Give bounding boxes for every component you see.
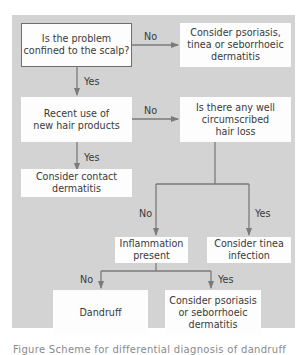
edge-label-inflammation-yes: Yes (218, 274, 234, 285)
node-label: Consider psoriasis or seborrhoeic dermat… (169, 295, 257, 331)
edge-label-hairloss-yes: Yes (255, 208, 271, 219)
edge-label-products-yes: Yes (84, 152, 100, 163)
node-label: Is there any well circumscribed hair los… (194, 102, 277, 138)
node-confined-to-scalp: Is the problem confined to the scalp? (21, 23, 132, 67)
node-consider-tinea-infection: Consider tinea infection (207, 237, 291, 263)
node-inflammation-present: Inflammation present (115, 237, 188, 263)
node-consider-contact-dermatitis: Consider contact dermatitis (21, 169, 132, 197)
node-consider-psoriasis-seborrhoeic: Consider psoriasis or seborrhoeic dermat… (165, 290, 261, 335)
edge-label-products-no: No (144, 105, 157, 116)
node-circumscribed-hair-loss: Is there any well circumscribed hair los… (180, 97, 291, 142)
edge-label-scalp-no: No (144, 31, 157, 42)
node-label: Recent use of new hair products (33, 108, 120, 132)
node-label: Inflammation present (119, 238, 184, 262)
edge-label-hairloss-no: No (139, 208, 152, 219)
node-label: Consider psoriasis, tinea or seborrhoeic… (186, 27, 285, 63)
edge-label-scalp-yes: Yes (84, 76, 100, 87)
node-consider-psoriasis-tinea: Consider psoriasis, tinea or seborrhoeic… (180, 23, 291, 67)
node-label: Consider tinea infection (211, 238, 287, 262)
node-recent-hair-products: Recent use of new hair products (21, 97, 132, 142)
edge-label-inflammation-no: No (80, 274, 93, 285)
figure-caption: Figure Scheme for differential diagnosis… (13, 344, 286, 355)
node-dandruff: Dandruff (53, 290, 148, 335)
node-label: Dandruff (79, 307, 121, 319)
node-label: Is the problem confined to the scalp? (22, 33, 131, 57)
node-label: Consider contact dermatitis (31, 171, 122, 195)
